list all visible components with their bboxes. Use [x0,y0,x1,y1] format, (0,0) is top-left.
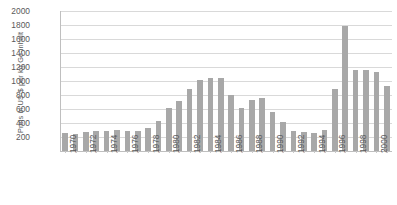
x-tick-mark [65,151,66,153]
x-tick-mark [335,151,336,153]
x-tick-mark [179,151,180,153]
x-tick-mark [262,151,263,153]
x-tick-mark [107,151,108,153]
y-tick-label: 1200 [0,63,30,71]
x-tick-mark [356,151,357,153]
x-tick-mark [231,151,232,153]
x-tick-mark [138,151,139,153]
y-tick-label: 400 [0,119,30,127]
x-tick-mark [314,151,315,153]
x-tick-mark [159,151,160,153]
bar-chart: Preis in US-$ per kg Ge-inhalt 200018001… [0,0,397,205]
x-tick-mark [273,151,274,153]
x-tick-mark [242,151,243,153]
y-tick-label: 800 [0,91,30,99]
bar-series [60,11,392,151]
y-tick-label: 1800 [0,21,30,29]
x-tick-mark [127,151,128,153]
x-tick-mark [86,151,87,153]
x-tick-mark [293,151,294,153]
x-tick-mark [210,151,211,153]
x-tick-mark [169,151,170,153]
x-tick-mark [376,151,377,153]
plot-area [60,11,392,151]
x-axis-tick-labels: 1970197219741976197819801982198419861988… [60,153,392,203]
x-tick-mark [200,151,201,153]
x-tick-mark [304,151,305,153]
x-tick-mark [221,151,222,153]
x-tick-mark [76,151,77,153]
y-tick-label: 2000 [0,7,30,15]
x-tick-mark [325,151,326,153]
y-tick-label: 1000 [0,77,30,85]
y-tick-label: 200 [0,133,30,141]
x-tick-mark [387,151,388,153]
x-tick-mark [283,151,284,153]
x-tick-mark [366,151,367,153]
x-tick-mark [345,151,346,153]
x-tick-mark [190,151,191,153]
x-tick-mark [117,151,118,153]
y-tick-label: 1600 [0,35,30,43]
y-tick-label: 600 [0,105,30,113]
x-tick-mark [252,151,253,153]
y-tick-label: 1400 [0,49,30,57]
bar [342,26,348,151]
x-tick-mark [148,151,149,153]
x-tick-mark [96,151,97,153]
